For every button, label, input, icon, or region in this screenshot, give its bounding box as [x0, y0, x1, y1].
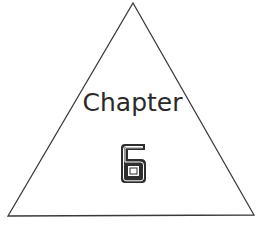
chapter-number-glyph: [118, 142, 148, 185]
chapter-badge: Chapter 6: [0, 0, 265, 232]
chapter-title: Chapter: [0, 88, 265, 117]
